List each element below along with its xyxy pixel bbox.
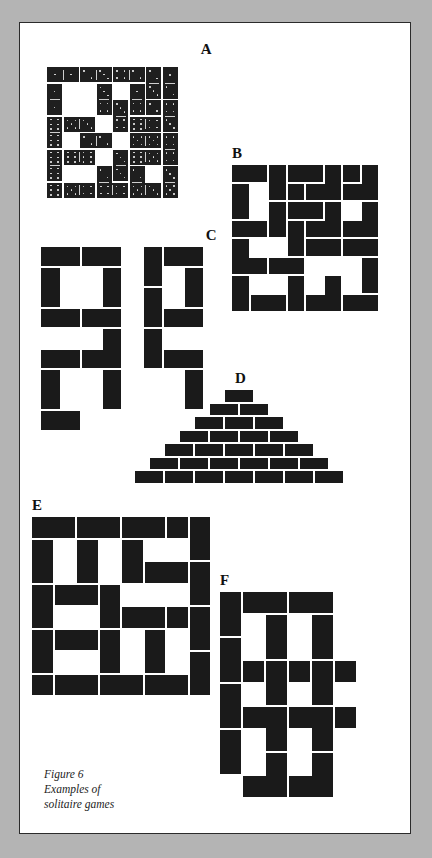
domino-tile bbox=[220, 638, 241, 682]
domino-tile bbox=[269, 165, 286, 200]
domino-tile bbox=[306, 184, 341, 201]
domino-pip bbox=[100, 110, 102, 112]
domino-pip bbox=[107, 193, 109, 195]
domino-pip bbox=[120, 173, 122, 175]
domino-divider bbox=[50, 99, 60, 100]
domino-pip bbox=[149, 160, 151, 162]
domino-pip bbox=[83, 156, 85, 158]
domino-pip bbox=[133, 186, 135, 188]
domino-pip bbox=[169, 173, 171, 175]
pyramid-brick bbox=[225, 417, 253, 429]
domino-tile bbox=[306, 221, 341, 238]
domino-tile bbox=[251, 295, 286, 312]
domino-pip bbox=[133, 128, 135, 130]
domino-pip bbox=[166, 193, 168, 195]
domino-tile bbox=[32, 517, 75, 538]
domino-tile bbox=[144, 329, 163, 368]
domino-pip bbox=[50, 135, 52, 137]
domino-pip bbox=[166, 185, 168, 187]
figure-a: A bbox=[47, 57, 203, 207]
domino-pip bbox=[99, 136, 101, 138]
pyramid-brick bbox=[195, 417, 223, 429]
domino-pip bbox=[57, 185, 59, 187]
caption-line-3: solitaire games bbox=[44, 797, 204, 812]
domino-pip bbox=[116, 70, 118, 72]
domino-pip bbox=[100, 87, 102, 89]
pyramid-brick bbox=[195, 444, 223, 456]
pyramid-brick bbox=[180, 458, 208, 470]
domino-tile bbox=[113, 100, 128, 132]
domino-pip bbox=[83, 120, 85, 122]
domino-tile bbox=[32, 540, 53, 583]
domino-pip bbox=[140, 123, 142, 125]
domino-tile bbox=[190, 562, 211, 605]
domino-pip bbox=[124, 70, 126, 72]
domino-divider bbox=[79, 119, 80, 129]
pyramid-brick bbox=[225, 390, 253, 402]
domino-tile bbox=[80, 133, 112, 148]
domino-divider bbox=[63, 70, 64, 80]
domino-pip bbox=[83, 161, 85, 163]
domino-tile bbox=[100, 585, 121, 628]
domino-tile bbox=[232, 221, 267, 238]
domino-pip bbox=[120, 157, 122, 159]
domino-pip bbox=[141, 186, 143, 188]
domino-divider bbox=[145, 152, 146, 162]
domino-pip bbox=[169, 189, 171, 191]
domino-pip bbox=[57, 189, 59, 191]
domino-tile bbox=[100, 675, 143, 696]
domino-tile bbox=[122, 517, 165, 538]
domino-tile bbox=[232, 184, 249, 219]
domino-pip bbox=[140, 161, 142, 163]
domino-tile bbox=[190, 517, 211, 560]
domino-pip bbox=[100, 186, 102, 188]
domino-tile bbox=[80, 67, 112, 82]
domino-pip bbox=[153, 189, 155, 191]
domino-tile bbox=[82, 309, 121, 328]
domino-pip bbox=[83, 193, 85, 195]
domino-pip bbox=[133, 110, 135, 112]
domino-pip bbox=[50, 128, 52, 130]
domino-pip bbox=[116, 103, 118, 105]
figure-a-label: A bbox=[201, 41, 212, 58]
domino-pip bbox=[166, 111, 168, 113]
domino-pip bbox=[54, 74, 56, 76]
pyramid-brick bbox=[270, 431, 298, 443]
domino-tile bbox=[289, 776, 333, 797]
domino-pip bbox=[107, 186, 109, 188]
domino-pip bbox=[54, 107, 56, 109]
domino-pip bbox=[149, 186, 151, 188]
domino-pip bbox=[50, 144, 52, 146]
domino-divider bbox=[165, 182, 175, 183]
domino-divider bbox=[165, 149, 175, 150]
domino-tile bbox=[232, 276, 249, 311]
pyramid-brick bbox=[195, 471, 223, 483]
domino-tile bbox=[288, 184, 305, 201]
domino-pip bbox=[124, 77, 126, 79]
domino-pip bbox=[173, 111, 175, 113]
domino-tile bbox=[306, 295, 341, 312]
domino-pip bbox=[169, 123, 171, 125]
domino-tile bbox=[163, 133, 178, 165]
domino-pip bbox=[57, 124, 59, 126]
domino-pip bbox=[103, 91, 105, 93]
domino-pip bbox=[153, 140, 155, 142]
domino-pip bbox=[173, 127, 175, 129]
pyramid-brick bbox=[285, 444, 313, 456]
domino-tile bbox=[163, 166, 178, 198]
domino-pip bbox=[141, 136, 143, 138]
domino-tile bbox=[41, 309, 80, 328]
domino-tile bbox=[55, 675, 98, 696]
pyramid-brick bbox=[255, 444, 283, 456]
domino-tile bbox=[167, 607, 188, 628]
domino-pip bbox=[116, 193, 118, 195]
figure-b-label: B bbox=[232, 145, 243, 162]
domino-tile bbox=[130, 117, 162, 132]
domino-divider bbox=[79, 152, 80, 162]
pyramid-brick bbox=[210, 404, 238, 416]
domino-tile bbox=[97, 84, 112, 116]
domino-pip bbox=[90, 156, 92, 158]
domino-pip bbox=[116, 127, 118, 129]
domino-tile bbox=[269, 202, 286, 237]
pyramid-brick bbox=[180, 431, 208, 443]
